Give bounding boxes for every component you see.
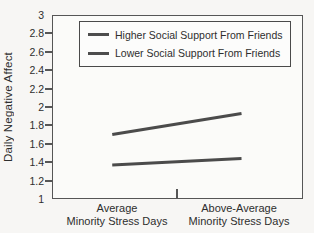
y-axis-tick-mark xyxy=(45,143,52,145)
y-axis-tick-mark xyxy=(45,106,52,108)
y-axis-tick-label: 2.6 xyxy=(14,46,45,58)
y-axis-tick-mark xyxy=(45,69,52,71)
y-axis-tick-label: 1.6 xyxy=(14,138,45,150)
legend-item-lower-support: Lower Social Support From Friends xyxy=(88,47,290,59)
y-axis-tick-label: 2 xyxy=(14,101,45,113)
legend-label-lower: Lower Social Support From Friends xyxy=(115,47,280,59)
y-axis-tick-label: 2.2 xyxy=(14,83,45,95)
y-axis-tick-mark xyxy=(45,32,52,34)
y-axis-tick-mark xyxy=(45,124,52,126)
legend: Higher Social Support From Friends Lower… xyxy=(79,21,291,67)
x-axis-center-tick-mark xyxy=(176,189,178,199)
x-axis-category-above-average: Above-Average Minority Stress Days xyxy=(189,202,290,227)
x-category-line2: Minority Stress Days xyxy=(189,215,290,228)
y-axis-tick-mark xyxy=(45,88,52,90)
legend-item-higher-support: Higher Social Support From Friends xyxy=(88,29,290,41)
x-category-line1: Average xyxy=(67,202,168,215)
y-axis-title: Daily Negative Affect xyxy=(2,52,14,162)
y-axis-tick-label: 3 xyxy=(14,9,45,21)
y-axis-tick-label: 1.2 xyxy=(14,175,45,187)
y-axis-tick-label: 1.4 xyxy=(14,156,45,168)
legend-line-sample-higher xyxy=(88,33,109,36)
y-axis-tick-mark xyxy=(45,180,52,182)
y-axis-tick-label: 2.4 xyxy=(14,64,45,76)
y-axis-tick-label: 2.8 xyxy=(14,27,45,39)
y-axis-tick-mark xyxy=(45,51,52,53)
x-axis-category-average: Average Minority Stress Days xyxy=(67,202,168,227)
y-axis-tick-label: 1.8 xyxy=(14,119,45,131)
x-category-line1: Above-Average xyxy=(189,202,290,215)
legend-label-higher: Higher Social Support From Friends xyxy=(115,29,282,41)
legend-line-sample-lower xyxy=(88,52,109,55)
y-axis-tick-label: 1 xyxy=(14,193,45,205)
line-chart-figure: Daily Negative Affect Higher Social Supp… xyxy=(0,0,314,233)
x-category-line2: Minority Stress Days xyxy=(67,215,168,228)
y-axis-tick-mark xyxy=(45,161,52,163)
